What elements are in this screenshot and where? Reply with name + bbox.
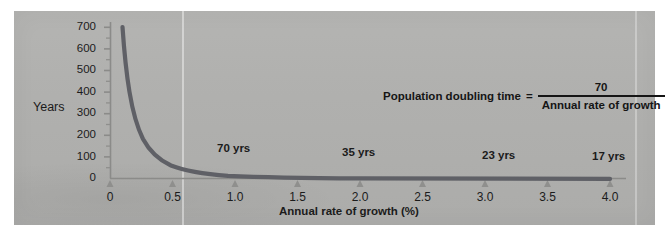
annotation-17-yrs: 17 yrs xyxy=(592,151,625,163)
formula-denominator: Annual rate of growth xyxy=(538,97,665,111)
x-tick-label: 2.0 xyxy=(340,191,380,203)
x-tick-label: 1.5 xyxy=(278,191,318,203)
annotation-23-yrs: 23 yrs xyxy=(482,150,515,162)
y-tick-label: 300 xyxy=(62,107,96,119)
y-tick-label: 600 xyxy=(62,43,96,55)
formula-fraction: 70 Annual rate of growth xyxy=(538,81,665,111)
x-tick-label: 4.0 xyxy=(590,191,630,203)
y-tick-label: 400 xyxy=(62,86,96,98)
doubling-time-formula: Population doubling time = 70 Annual rat… xyxy=(383,81,665,111)
formula-equals-sign: = xyxy=(526,90,533,102)
x-tick-label: 3.0 xyxy=(465,191,505,203)
x-tick-label: 3.5 xyxy=(528,191,568,203)
y-tick-label: 0 xyxy=(62,172,96,184)
figure-root: 700 600 500 400 300 200 100 0 Years 0 0.… xyxy=(0,0,669,241)
x-tick-label: 0 xyxy=(90,191,130,203)
x-tick-label: 0.5 xyxy=(153,191,193,203)
x-tick-label: 1.0 xyxy=(215,191,255,203)
x-axis-label: Annual rate of growth (%) xyxy=(279,206,419,218)
y-tick-label: 500 xyxy=(62,64,96,76)
x-tick-label: 2.5 xyxy=(403,191,443,203)
formula-numerator: 70 xyxy=(589,81,614,95)
formula-left-hand-side: Population doubling time xyxy=(383,90,521,102)
y-axis-label: Years xyxy=(33,101,65,114)
scan-artifact-line xyxy=(635,11,637,225)
y-tick-label: 100 xyxy=(62,151,96,163)
y-tick-label: 700 xyxy=(62,21,96,33)
annotation-70-yrs: 70 yrs xyxy=(217,143,250,155)
annotation-35-yrs: 35 yrs xyxy=(342,147,375,159)
y-tick-label: 200 xyxy=(62,129,96,141)
